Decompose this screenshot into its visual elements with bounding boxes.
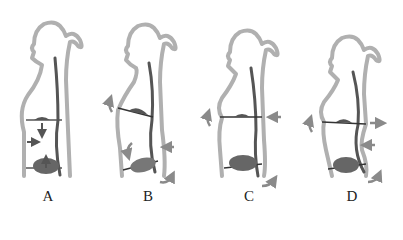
figure-b bbox=[109, 24, 175, 182]
figure-label-a: A bbox=[33, 188, 63, 205]
body-outline-c bbox=[219, 30, 278, 176]
figure-a bbox=[22, 22, 82, 176]
spine-b bbox=[149, 63, 155, 172]
body-outline-b bbox=[117, 24, 175, 176]
body-outline-d bbox=[321, 36, 380, 176]
figure-d bbox=[309, 36, 381, 182]
upper-diaphragm-c bbox=[234, 114, 250, 117]
body-outline-a bbox=[22, 22, 82, 176]
figure-label-d: D bbox=[337, 188, 367, 205]
spine-a bbox=[55, 58, 60, 175]
figure-label-b: B bbox=[133, 188, 163, 205]
figure-c bbox=[207, 30, 281, 186]
lower-diaphragm-d bbox=[333, 157, 359, 173]
figure-label-c: C bbox=[234, 188, 264, 205]
lower-diaphragm-c bbox=[229, 155, 257, 171]
upper-diaphragm-a bbox=[34, 117, 50, 120]
